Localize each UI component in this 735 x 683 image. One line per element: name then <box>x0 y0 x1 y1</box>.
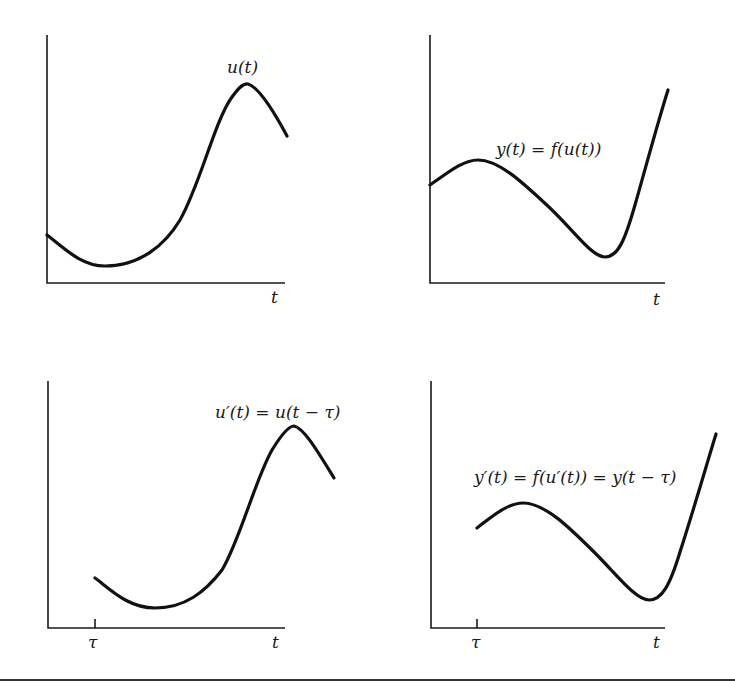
panel-shifted-output: y′(t) = f(u′(t)) = y(t − τ) τ t <box>431 381 716 652</box>
x-axis-label: t <box>272 632 279 652</box>
input-curve <box>47 84 287 266</box>
panel-axes <box>430 35 665 283</box>
time-invariance-diagram: u(t) t y(t) = f(u(t)) t u′(t) = u(t − τ)… <box>0 0 735 683</box>
output-curve <box>430 90 668 257</box>
curve-label: u(t) <box>227 57 258 77</box>
x-axis-label: t <box>271 287 278 307</box>
curve-label: y(t) = f(u(t)) <box>495 139 601 159</box>
panel-output-signal: y(t) = f(u(t)) t <box>430 35 668 309</box>
panel-shifted-input: u′(t) = u(t − τ) τ t <box>48 381 340 652</box>
tau-tick-label: τ <box>471 632 481 652</box>
curve-label: u′(t) = u(t − τ) <box>215 402 340 422</box>
curve-label: y′(t) = f(u′(t)) = y(t − τ) <box>473 467 676 487</box>
shifted-output-curve <box>477 434 716 600</box>
shifted-input-curve <box>95 426 334 608</box>
x-axis-label: t <box>653 632 660 652</box>
x-axis-label: t <box>653 289 660 309</box>
tau-tick-label: τ <box>88 632 98 652</box>
panel-input-signal: u(t) t <box>47 35 287 307</box>
